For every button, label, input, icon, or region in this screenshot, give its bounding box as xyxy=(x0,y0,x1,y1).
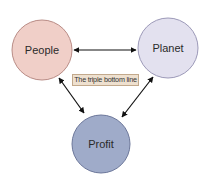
profit-label: Profit xyxy=(88,138,114,150)
planet-node: Planet xyxy=(138,18,198,78)
profit-node: Profit xyxy=(72,115,130,173)
people-label: People xyxy=(25,44,59,56)
planet-label: Planet xyxy=(152,42,183,54)
triple-bottom-line-diagram: People Planet Profit xyxy=(0,0,208,182)
diagram-caption: The triple bottom line xyxy=(72,74,139,86)
people-node: People xyxy=(12,20,72,80)
